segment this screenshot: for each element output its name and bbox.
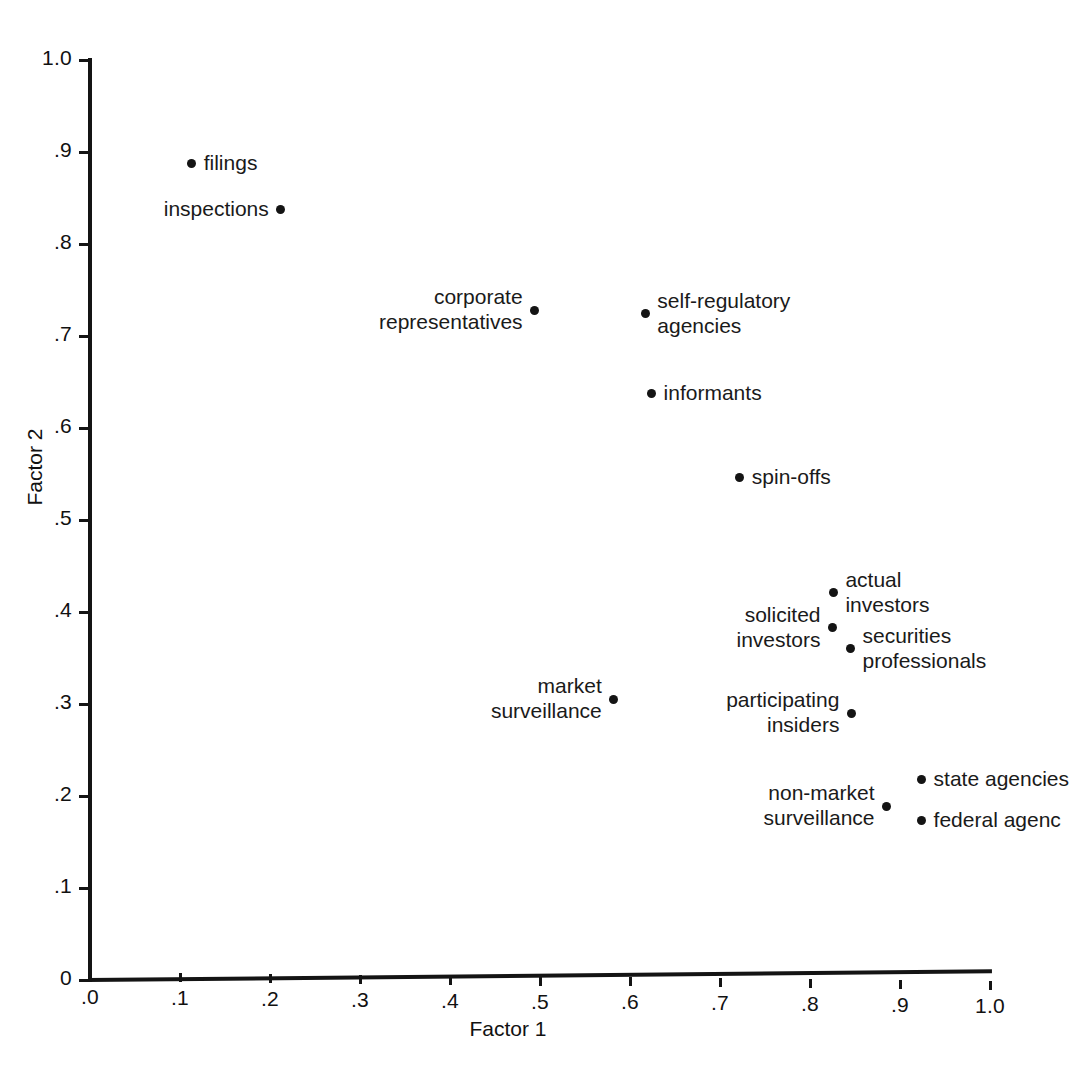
x-axis-title: Factor 1: [0, 1017, 1064, 1041]
x-axis-tick: [629, 977, 632, 986]
x-axis-tick-label: .4: [441, 989, 459, 1013]
y-axis-tick-label: .9: [0, 138, 72, 162]
y-axis-tick-label: .8: [0, 230, 72, 254]
data-point-label-line: spin-offs: [752, 464, 831, 489]
x-axis-tick-label: .6: [621, 990, 639, 1014]
data-point-label-line: insiders: [0, 712, 839, 737]
x-axis-tick-label: .0: [81, 985, 99, 1009]
y-axis-tick-label: 0: [0, 966, 72, 990]
data-point-label-line: filings: [204, 150, 258, 175]
y-axis-tick: [79, 151, 92, 154]
data-point: [917, 816, 926, 825]
x-axis-tick-label: .2: [261, 987, 279, 1011]
data-point-label-line: representatives: [0, 309, 523, 334]
data-point-label: non-marketsurveillance: [0, 780, 875, 830]
y-axis-tick-label: .1: [0, 874, 72, 898]
data-point-label: inspections: [0, 196, 269, 221]
y-axis-tick-label: 1.0: [0, 46, 72, 70]
x-axis-tick-label: .5: [531, 990, 549, 1014]
data-point-label: state agencies: [934, 766, 1069, 791]
data-point-label-line: surveillance: [0, 805, 875, 830]
x-axis-tick: [179, 973, 182, 982]
x-axis-title-text: Factor 1: [469, 1017, 546, 1041]
data-point: [882, 802, 891, 811]
data-point: [735, 473, 744, 482]
x-axis-tick-label: .3: [351, 988, 369, 1012]
x-axis-tick: [449, 976, 452, 985]
data-point-label: filings: [204, 150, 258, 175]
data-point: [917, 775, 926, 784]
data-point-label-line: inspections: [0, 196, 269, 221]
y-axis-tick: [79, 243, 92, 246]
x-axis-tick: [719, 978, 722, 987]
data-point: [847, 709, 856, 718]
data-point-label-line: participating: [0, 687, 839, 712]
data-point-label: spin-offs: [752, 464, 831, 489]
data-point-label: self-regulatoryagencies: [657, 288, 790, 338]
data-point-label-line: actual: [845, 567, 929, 592]
x-axis-tick-label: .7: [711, 991, 729, 1015]
data-point-label: federal agenc: [934, 807, 1061, 832]
x-axis-tick: [269, 974, 272, 983]
data-point-label-line: securities: [863, 623, 987, 648]
x-axis-tick: [989, 981, 992, 990]
data-point-label-line: professionals: [863, 648, 987, 673]
x-axis-tick: [539, 977, 542, 986]
y-axis-tick: [79, 519, 92, 522]
data-point-label: actualinvestors: [845, 567, 929, 617]
data-point: [647, 389, 656, 398]
data-point-label-line: self-regulatory: [657, 288, 790, 313]
y-axis-tick: [79, 59, 92, 62]
x-axis-tick: [809, 979, 812, 988]
data-point-label-line: federal agenc: [934, 807, 1061, 832]
data-point: [828, 623, 837, 632]
data-point: [829, 588, 838, 597]
data-point-label-line: non-market: [0, 780, 875, 805]
y-axis-tick: [79, 887, 92, 890]
x-axis-tick: [359, 975, 362, 984]
data-point-label-line: agencies: [657, 313, 790, 338]
x-axis-tick: [89, 972, 92, 981]
y-axis-tick: [79, 427, 92, 430]
data-point-label: corporaterepresentatives: [0, 284, 523, 334]
data-point-label-line: informants: [664, 380, 762, 405]
x-axis-tick-label: .8: [801, 992, 819, 1016]
data-point: [530, 306, 539, 315]
data-point: [187, 159, 196, 168]
data-point: [846, 644, 855, 653]
data-point-label: securitiesprofessionals: [863, 623, 987, 673]
data-point: [641, 309, 650, 318]
data-point-label-line: solicited: [0, 602, 821, 627]
x-axis-tick-label: .1: [171, 986, 189, 1010]
data-point-label: solicitedinvestors: [0, 602, 821, 652]
data-point-label-line: investors: [845, 592, 929, 617]
data-point-label-line: corporate: [0, 284, 523, 309]
data-point-label: informants: [664, 380, 762, 405]
data-point-label-line: investors: [0, 627, 821, 652]
y-axis-title: Factor 2: [23, 392, 47, 542]
x-axis-tick-label: .9: [891, 993, 909, 1017]
data-point-label: participatinginsiders: [0, 687, 839, 737]
data-point: [276, 205, 285, 214]
x-axis-tick-label: 1.0: [975, 994, 1005, 1018]
y-axis-tick: [79, 335, 92, 338]
data-point-label-line: state agencies: [934, 766, 1069, 791]
x-axis-tick: [899, 980, 902, 989]
